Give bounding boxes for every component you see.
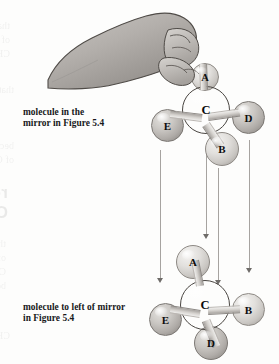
caption-mirror-line1: molecule in the	[23, 107, 104, 118]
background-bleed-text: becomes a stereocenter atom	[0, 140, 14, 151]
caption-mirror-line2: mirror in Figure 5.4	[23, 118, 104, 129]
background-bleed-text: Carbon Atom) #group: stere	[0, 203, 8, 223]
background-bleed-text: that have a carbon atom	[0, 238, 6, 249]
atom-d-mirror: D	[232, 101, 265, 134]
background-bleed-text: that have a carbon atom	[0, 20, 10, 31]
correspondence-arrow-line-c	[218, 168, 219, 280]
correspondence-arrow-line-e	[160, 150, 161, 278]
bond-c-b-lower	[208, 305, 240, 315]
correspondence-arrow-head-a	[203, 234, 209, 239]
correspondence-arrow-line-b	[249, 140, 250, 268]
caption-left-line1: molecule to left of mirror	[23, 302, 125, 313]
correspondence-arrow-head-b	[246, 268, 252, 273]
background-bleed-text: of CH2ClBr is not equal to	[0, 34, 10, 45]
background-bleed-text: becomes a stereocenter atom	[0, 280, 6, 291]
background-bleed-text: CH3 ... configuration of CH3CH2	[0, 266, 6, 277]
background-bleed-text: reogenic Centers, the Ste	[0, 183, 8, 203]
caption-left-molecule: molecule to left of mirror in Figure 5.4	[23, 302, 125, 325]
molecule-mirror-figure: reogenic Centers, the Ste Carbon Atom) #…	[0, 0, 279, 364]
background-bleed-text: that have a carbon atom	[0, 84, 14, 95]
caption-mirror-molecule: molecule in the mirror in Figure 5.4	[23, 107, 104, 130]
background-bleed-text: CH3 ... configuration of CH3CH2	[0, 48, 10, 59]
background-bleed-text: CH3 ... configuration of CH3CH2	[0, 330, 10, 341]
bond-c-a	[199, 64, 208, 90]
correspondence-arrow-line-a	[206, 150, 207, 234]
background-bleed-text: of CH2ClBr is not equal to	[0, 252, 6, 263]
correspondence-arrow-head-e	[157, 278, 163, 283]
background-bleed-text: of CH2ClBr is not equal to	[0, 154, 14, 165]
caption-left-line2: in Figure 5.4	[23, 313, 125, 324]
